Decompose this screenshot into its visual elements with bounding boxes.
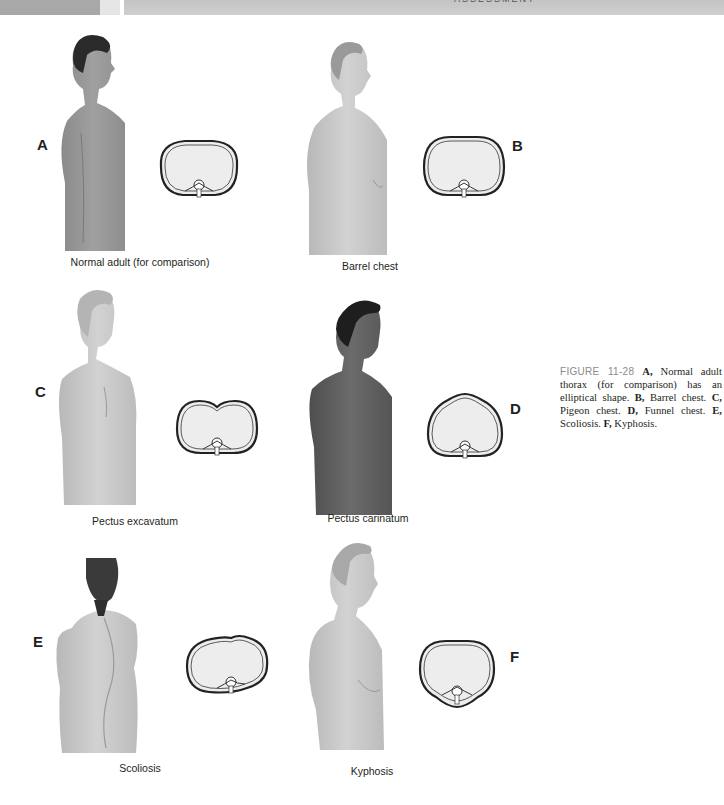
caption-key-f: F, [604,418,612,429]
scoliosis-figure-icon [50,558,140,753]
panel-letter-a: A [37,136,48,153]
caption-text-f: Kyphosis. [612,418,657,429]
normal-adult-figure-icon [55,33,125,251]
label-pectus-excavatum: Pectus excavatum [25,515,245,527]
caption-key-e: E, [712,405,722,416]
header-band: ASSESSMENT [124,0,724,15]
caption-text-c: Pigeon chest. [560,405,628,416]
label-barrel-chest: Barrel chest [260,260,480,272]
running-title: ASSESSMENT [454,0,536,4]
panel-letter-f: F [510,648,519,665]
rounded-thorax-cross-section-icon [420,133,508,199]
pectus-carinatum-figure-icon [302,297,394,515]
panel-letter-b: B [512,137,523,154]
elliptical-thorax-cross-section-icon [155,137,243,199]
caption-text-e: Scoliosis. [560,418,604,429]
asymmetric-thorax-cross-section-icon [183,632,271,696]
pectus-excavatum-figure-icon [52,287,142,505]
label-pectus-carinatum: Pectus carinatum [258,512,478,524]
panel-letter-e: E [33,633,43,650]
indented-sternum-thorax-cross-section-icon [173,397,261,457]
caption-text-b: Barrel chest. [644,392,711,403]
rounded-kyphotic-thorax-cross-section-icon [416,637,498,709]
protruding-sternum-thorax-cross-section-icon [424,390,506,460]
figure-caption: FIGURE 11-28 A, Normal adult thorax (for… [560,365,722,430]
header-band-gap [100,0,120,15]
label-normal-adult: Normal adult (for comparison) [30,256,250,268]
caption-key-c: C, [712,392,722,403]
kyphosis-figure-icon [300,540,392,750]
barrel-chest-figure-icon [303,40,393,255]
header-band-left [0,0,100,15]
caption-key-a: A, [642,366,652,377]
caption-text-d: Funnel chest. [638,405,712,416]
caption-key-d: D, [628,405,638,416]
figure-number: FIGURE 11-28 [560,366,634,377]
label-scoliosis: Scoliosis [30,762,250,774]
panel-letter-c: C [35,383,46,400]
caption-key-b: B, [635,392,645,403]
panel-letter-d: D [510,400,521,417]
label-kyphosis: Kyphosis [262,765,482,777]
